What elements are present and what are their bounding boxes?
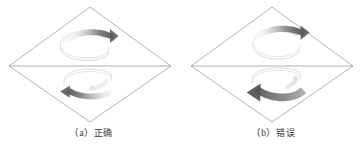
rhombus-outline [191, 7, 353, 122]
panel-a-caption: （a）正确 [0, 126, 182, 140]
panel-b-caption-text: 错误 [276, 128, 294, 138]
panel-a-label: （a） [69, 128, 94, 138]
rotation-arrow-bottom-incorrect [247, 68, 307, 102]
rotation-arrow-top-incorrect [253, 26, 310, 60]
figure-root: （a）正确 [0, 0, 364, 150]
arrow-head [247, 83, 261, 101]
arrow-head [301, 26, 310, 40]
panel-a-caption-text: 正确 [94, 128, 112, 138]
arrow-head [60, 86, 70, 98]
arrow-body [65, 88, 114, 99]
rhombus-diagram-b [182, 0, 364, 128]
panel-b-caption: （b）错误 [182, 126, 364, 140]
figure-panel-b: （b）错误 [182, 0, 364, 150]
panel-b-label: （b） [251, 128, 276, 138]
rotation-arrow-bottom-correct [60, 69, 113, 99]
rhombus-diagram-a [0, 0, 182, 128]
figure-panel-a: （a）正确 [0, 0, 182, 150]
arrow-head [110, 29, 119, 43]
rotation-arrow-top-correct [60, 29, 118, 61]
arrow-body [254, 87, 306, 101]
rhombus-outline [9, 7, 171, 122]
arrow-body [256, 26, 305, 39]
arrow-body [66, 29, 114, 42]
